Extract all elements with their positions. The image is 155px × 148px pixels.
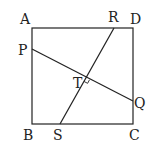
segment-pq	[32, 49, 133, 101]
label-c: C	[129, 127, 140, 143]
label-t: T	[73, 75, 83, 91]
label-s: S	[53, 127, 63, 143]
geometry-diagram: A R D P T Q B S C	[0, 0, 155, 148]
label-r: R	[108, 9, 119, 25]
label-a: A	[19, 11, 31, 27]
label-b: B	[23, 127, 33, 143]
label-q: Q	[134, 95, 145, 111]
label-p: P	[18, 42, 27, 58]
segment-rs	[60, 28, 114, 124]
label-d: D	[130, 11, 141, 27]
square-abcd	[32, 28, 133, 124]
